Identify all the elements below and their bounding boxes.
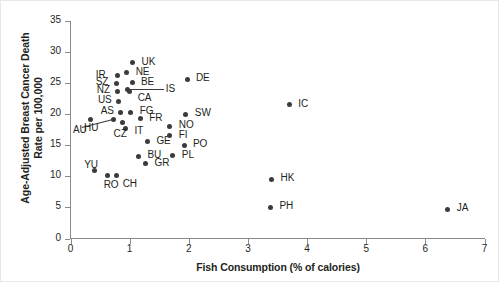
data-point-NZ <box>115 89 120 94</box>
y-tick-30 <box>65 52 70 53</box>
data-point-PL <box>170 153 175 158</box>
data-label-JA: JA <box>457 202 468 213</box>
data-point-DE <box>185 77 190 82</box>
data-point-NE <box>124 70 129 75</box>
y-tick-15 <box>65 145 70 146</box>
data-point-HK <box>269 177 274 182</box>
data-label-CZ: CZ <box>114 128 127 139</box>
y-axis-label-line1: Age-Adjusted Breast Cancer Death <box>19 26 32 211</box>
x-tick-label-3: 3 <box>236 243 260 254</box>
data-point-GE <box>145 139 150 144</box>
data-point-NO <box>167 124 172 129</box>
y-tick-35 <box>65 21 70 22</box>
data-point-AU <box>88 117 93 122</box>
data-point-JA <box>445 207 450 212</box>
data-label-PO: PO <box>193 138 207 149</box>
data-label-FR: FR <box>149 112 162 123</box>
x-tick-label-0: 0 <box>59 243 83 254</box>
y-tick-25 <box>65 83 70 84</box>
data-point-FR <box>138 116 143 121</box>
data-point-SZ <box>114 81 119 86</box>
data-label-HK: HK <box>281 172 295 183</box>
data-point-IR <box>115 73 120 78</box>
data-point-FG <box>128 110 133 115</box>
y-axis-line <box>70 21 71 239</box>
data-label-RO: RO <box>104 179 119 190</box>
y-tick-label-20: 20 <box>35 107 61 118</box>
data-label-PL: PL <box>182 149 194 160</box>
y-tick-label-30: 30 <box>35 45 61 56</box>
x-tick-label-1: 1 <box>118 243 142 254</box>
data-label-DE: DE <box>196 72 210 83</box>
data-point-BE <box>130 80 135 85</box>
data-point-US <box>116 99 121 104</box>
data-point-UK <box>130 60 135 65</box>
x-tick-label-7: 7 <box>473 243 497 254</box>
data-label-PH: PH <box>279 200 293 211</box>
data-label-IT: IT <box>135 125 144 136</box>
y-tick-0 <box>65 239 70 240</box>
data-point-IC <box>287 102 292 107</box>
data-point-GR <box>143 161 148 166</box>
leader-line-IS <box>128 89 164 90</box>
data-label-BE: BE <box>141 76 154 87</box>
data-point-PH <box>268 205 273 210</box>
data-label-US: US <box>98 94 112 105</box>
data-point-RO <box>105 173 110 178</box>
y-tick-label-15: 15 <box>35 138 61 149</box>
data-label-GR: GR <box>155 157 170 168</box>
y-tick-20 <box>65 114 70 115</box>
data-point-AS <box>118 110 123 115</box>
x-tick-label-5: 5 <box>354 243 378 254</box>
x-axis-label: Fish Consumption (% of calories) <box>71 261 485 273</box>
data-label-AU: AU <box>73 124 87 135</box>
data-label-SW: SW <box>195 107 211 118</box>
data-label-AS: AS <box>101 105 114 116</box>
data-point-CZ <box>120 120 125 125</box>
x-axis-line <box>70 238 485 239</box>
y-tick-label-35: 35 <box>35 14 61 25</box>
data-point-BU <box>136 154 141 159</box>
data-label-CH: CH <box>123 178 137 189</box>
data-point-CH <box>114 173 119 178</box>
data-label-FI: FI <box>179 129 188 140</box>
data-point-PO <box>182 143 187 148</box>
data-point-FI <box>167 133 172 138</box>
y-tick-label-0: 0 <box>35 232 61 243</box>
x-tick-label-2: 2 <box>177 243 201 254</box>
y-tick-label-5: 5 <box>35 200 61 211</box>
y-tick-label-25: 25 <box>35 76 61 87</box>
data-label-IC: IC <box>298 98 308 109</box>
y-tick-10 <box>65 176 70 177</box>
data-label-IS: IS <box>166 83 175 94</box>
data-point-SW <box>183 112 188 117</box>
x-tick-label-4: 4 <box>295 243 319 254</box>
y-tick-label-10: 10 <box>35 169 61 180</box>
data-label-YU: YU <box>84 159 98 170</box>
data-label-CA: CA <box>138 92 152 103</box>
y-tick-5 <box>65 207 70 208</box>
x-tick-label-6: 6 <box>413 243 437 254</box>
